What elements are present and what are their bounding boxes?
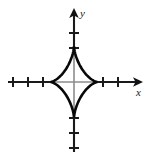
y-axis-label: y <box>79 7 85 19</box>
y-axis <box>69 8 79 152</box>
x-axis-label: x <box>135 86 141 98</box>
plot-canvas: y x <box>0 0 151 158</box>
astroid-figure: y x <box>0 0 151 158</box>
